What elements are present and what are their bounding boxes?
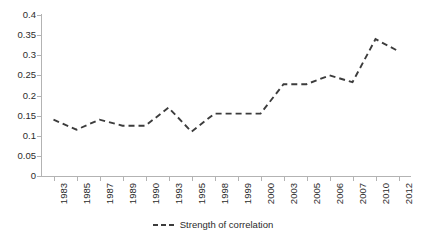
line-chart: 0.40.350.30.250.20.150.10.050 1983198519…: [0, 0, 426, 243]
legend-line-swatch: [153, 220, 175, 230]
series-plot: [0, 0, 426, 243]
legend: Strength of correlation: [0, 219, 426, 230]
series-line-strength-of-correlation: [54, 39, 399, 132]
legend-label: Strength of correlation: [180, 219, 273, 230]
